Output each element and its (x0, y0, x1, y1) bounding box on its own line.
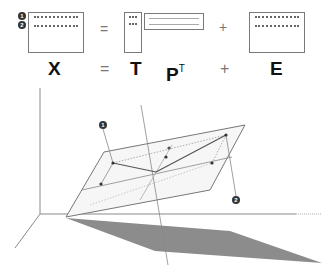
axis-depth (15, 214, 40, 248)
data-point (167, 146, 170, 149)
pca-plane-diagram (0, 0, 334, 274)
data-point (210, 161, 213, 164)
data-point (111, 161, 114, 164)
data-point (164, 155, 167, 158)
data-point (224, 133, 227, 136)
data-point (99, 182, 102, 185)
diagram-marker-1: 1 (99, 121, 107, 129)
plane-shadow (66, 218, 322, 263)
diagram-marker-2: 2 (232, 196, 240, 204)
